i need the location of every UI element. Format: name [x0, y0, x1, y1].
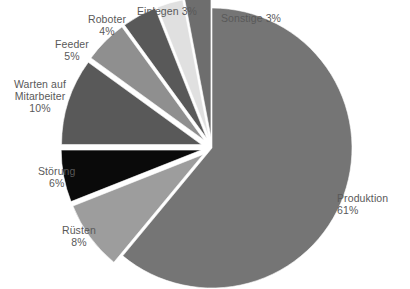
- pie-label-ruesten-value: 8%: [62, 236, 96, 248]
- pie-label-feeder-name: Feeder: [55, 38, 89, 50]
- pie-label-ruesten-name: Rüsten: [62, 224, 96, 236]
- pie-label-einlegen: Einlegen 3%: [137, 5, 197, 17]
- pie-label-roboter-value: 4%: [88, 25, 126, 37]
- pie-label-warten-name-line2: Mitarbeiter: [14, 90, 66, 102]
- pie-label-stoerung-name: Störung: [38, 165, 75, 177]
- pie-label-produktion-name: Produktion: [337, 192, 388, 204]
- pie-label-feeder: Feeder 5%: [55, 38, 89, 62]
- pie-chart: Produktion 61% Rüsten 8% Störung 6% Wart…: [0, 0, 410, 289]
- pie-label-sonstige-text: Sonstige 3%: [221, 12, 281, 24]
- pie-label-roboter: Roboter 4%: [88, 13, 126, 37]
- pie-label-ruesten: Rüsten 8%: [62, 224, 96, 248]
- pie-label-einlegen-text: Einlegen 3%: [137, 5, 197, 17]
- pie-label-warten-auf-mitarbeiter: Warten auf Mitarbeiter 10%: [14, 78, 66, 115]
- pie-label-feeder-value: 5%: [55, 50, 89, 62]
- pie-label-produktion-value: 61%: [337, 204, 388, 216]
- pie-label-roboter-name: Roboter: [88, 13, 126, 25]
- pie-label-stoerung-value: 6%: [38, 177, 75, 189]
- pie-label-warten-name-line1: Warten auf: [14, 78, 66, 90]
- pie-label-produktion: Produktion 61%: [337, 192, 388, 216]
- pie-label-sonstige: Sonstige 3%: [221, 12, 281, 24]
- pie-label-warten-value: 10%: [14, 102, 66, 114]
- pie-label-stoerung: Störung 6%: [38, 165, 75, 189]
